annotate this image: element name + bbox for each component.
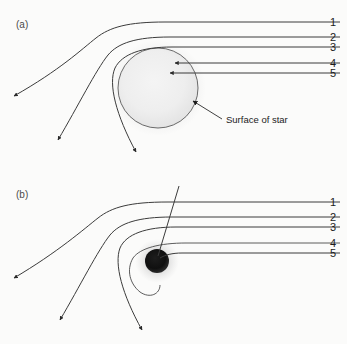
panel-b: (b) 1 2 3 4 5 bbox=[14, 186, 340, 330]
panel-a-label: (a) bbox=[16, 19, 28, 30]
star-surface-circle bbox=[118, 48, 198, 128]
ray-label-5-panel-b: 5 bbox=[330, 247, 336, 259]
surface-of-star-annotation: Surface of star bbox=[226, 114, 288, 125]
black-hole-core bbox=[145, 249, 169, 273]
panel-b-label: (b) bbox=[16, 189, 28, 200]
ray-label-1-panel-a: 1 bbox=[330, 16, 336, 28]
ray-label-5-panel-a: 5 bbox=[330, 67, 336, 79]
ray-path-5-panel-b bbox=[160, 253, 340, 258]
panel-a: (a) 1 2 3 4 5 Surface of star bbox=[14, 16, 340, 152]
diagram-canvas: (a) 1 2 3 4 5 Surface of star bbox=[0, 0, 347, 344]
ray-label-3-panel-b: 3 bbox=[330, 221, 336, 233]
ray-label-1-panel-b: 1 bbox=[330, 196, 336, 208]
ray-path-2-panel-b bbox=[60, 217, 340, 320]
ray-bending-figure: (a) 1 2 3 4 5 Surface of star bbox=[0, 0, 347, 344]
ray-label-3-panel-a: 3 bbox=[330, 41, 336, 53]
